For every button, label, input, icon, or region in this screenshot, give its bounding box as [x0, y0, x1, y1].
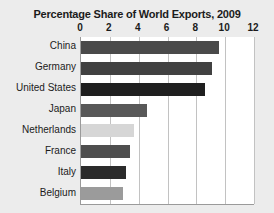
bar-row: [81, 162, 254, 183]
bar-japan: [81, 104, 147, 117]
bar-row: [81, 58, 254, 79]
category-label-belgium: Belgium: [0, 187, 76, 198]
bar-france: [81, 145, 130, 158]
category-label-japan: Japan: [0, 103, 76, 114]
category-label-france: France: [0, 145, 76, 156]
bar-row: [81, 79, 254, 100]
x-tick-label-0: 0: [77, 22, 83, 33]
bar-row: [81, 37, 254, 58]
category-label-china: China: [0, 40, 76, 51]
category-label-germany: Germany: [0, 61, 76, 72]
bar-belgium: [81, 187, 123, 200]
x-tick-label-2: 2: [106, 22, 112, 33]
gridline-12: [254, 37, 255, 204]
x-tick-label-10: 10: [219, 22, 230, 33]
x-tick-label-12: 12: [247, 22, 258, 33]
chart-title: Percentage Share of World Exports, 2009: [0, 8, 274, 20]
bar-row: [81, 100, 254, 121]
bar-chart-figure: Percentage Share of World Exports, 2009 …: [0, 0, 274, 213]
bar-china: [81, 41, 219, 54]
bar-row: [81, 183, 254, 204]
bars-container: [81, 37, 254, 204]
category-axis-labels: ChinaGermanyUnited StatesJapanNetherland…: [0, 37, 76, 204]
x-tick-label-8: 8: [193, 22, 199, 33]
bar-row: [81, 141, 254, 162]
plot-area: [80, 37, 254, 205]
bar-italy: [81, 166, 126, 179]
bar-united-states: [81, 83, 205, 96]
x-axis-tick-labels: 024681012: [80, 22, 253, 36]
bar-netherlands: [81, 124, 134, 137]
bar-row: [81, 121, 254, 142]
category-label-italy: Italy: [0, 166, 76, 177]
bar-germany: [81, 62, 212, 75]
category-label-netherlands: Netherlands: [0, 124, 76, 135]
x-tick-label-4: 4: [135, 22, 141, 33]
x-tick-label-6: 6: [164, 22, 170, 33]
category-label-united-states: United States: [0, 82, 76, 93]
